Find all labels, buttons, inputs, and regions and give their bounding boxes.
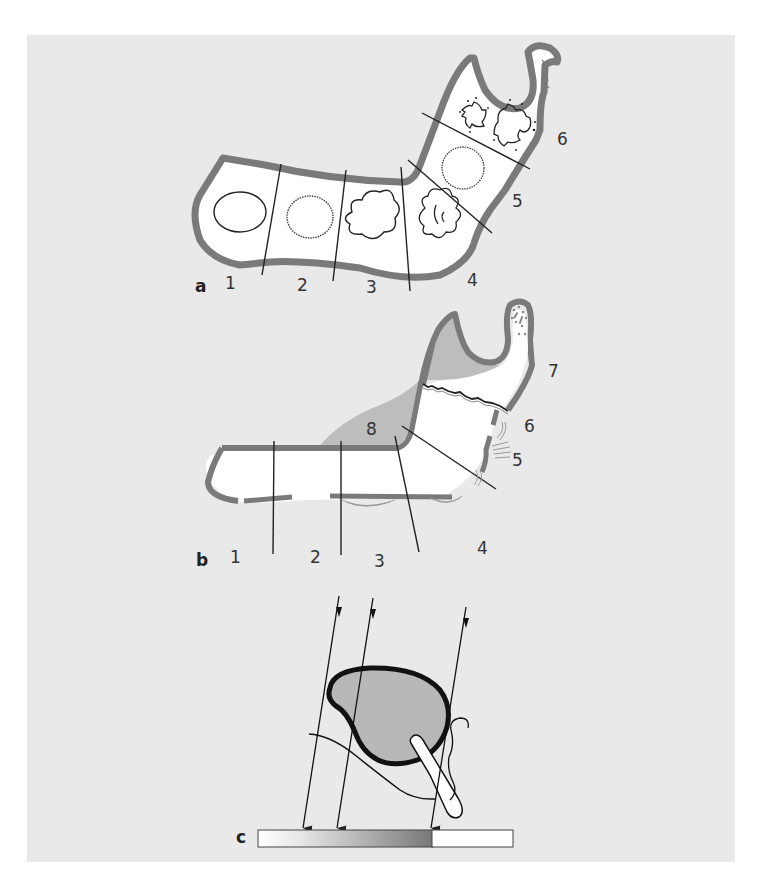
zone-label-a-6: 6 [557, 129, 568, 149]
zone-label-b-4: 4 [477, 538, 488, 558]
zone-label-a-5: 5 [512, 191, 523, 211]
periosteal-reaction-3 [342, 500, 395, 506]
figure-caption-faded [20, 868, 740, 882]
periosteal-reaction-5 [492, 422, 511, 458]
panel-a-bone-outline [195, 46, 558, 278]
diagram-figure: a 1 2 3 4 5 6 [0, 0, 760, 885]
zone-label-b-8: 8 [366, 419, 377, 439]
zone-label-b-5: 5 [512, 450, 523, 470]
zone-label-b-6: 6 [524, 416, 535, 436]
panel-b: b 1 2 3 4 5 6 7 8 [196, 302, 559, 572]
gradient-detector [258, 830, 433, 847]
zone-label-a-3: 3 [366, 277, 377, 297]
panel-a: a 1 2 3 4 5 6 [195, 46, 568, 297]
zone-label-b-1: 1 [230, 547, 241, 567]
zone-label-a-4: 4 [467, 270, 478, 290]
detector-white-segment [432, 830, 513, 847]
panel-b-bone-fill [206, 310, 528, 503]
zone-label-a-1: 1 [225, 273, 236, 293]
panel-c-label: c [236, 827, 246, 847]
zone-label-b-7: 7 [548, 361, 559, 381]
panel-a-label: a [195, 276, 206, 296]
zone-label-b-3: 3 [374, 551, 385, 571]
panel-c: c [236, 596, 513, 847]
panel-b-label: b [196, 550, 208, 570]
x-ray-beam-1 [303, 596, 339, 828]
zone-label-a-2: 2 [297, 275, 308, 295]
zone-label-b-2: 2 [310, 547, 321, 567]
